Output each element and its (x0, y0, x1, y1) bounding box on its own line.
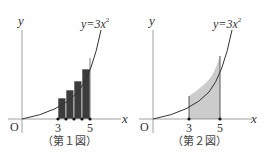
tick-label-5: 5 (217, 122, 223, 134)
origin-label: O (10, 121, 19, 133)
hatched-area (189, 40, 219, 119)
curve-equation-label: y=3x2 (213, 17, 241, 30)
x-axis-label: x (251, 112, 257, 125)
curve-equation-label: y=3x2 (81, 17, 109, 30)
figure-caption: （第１図） (42, 136, 97, 147)
y-axis-label: y (149, 14, 155, 27)
x-axis-label: x (122, 112, 128, 125)
tick-label-3: 3 (55, 122, 61, 134)
step-rectangles (58, 69, 90, 119)
y-axis-label: y (18, 14, 24, 27)
figure-2 (139, 30, 252, 133)
figure-1 (8, 30, 121, 133)
tick-label-5: 5 (87, 122, 93, 134)
tick-label-3: 3 (186, 122, 192, 134)
origin-label: O (140, 121, 149, 133)
figure-caption: （第２図） (172, 136, 227, 147)
